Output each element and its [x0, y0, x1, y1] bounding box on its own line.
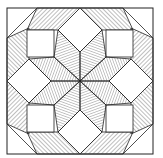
quilt-block-svg: [0, 0, 163, 158]
center-dot: [79, 80, 82, 83]
quilt-block-diagram: [0, 0, 163, 158]
